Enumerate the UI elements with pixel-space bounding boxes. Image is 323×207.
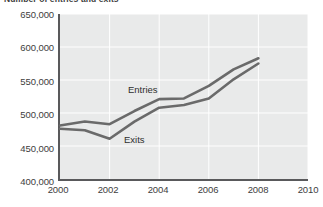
- x-axis-tick-label: 2000: [48, 184, 69, 195]
- entries-exits-line-chart: Number of entries and exits 400,000450,0…: [0, 0, 323, 207]
- plot-area: [58, 14, 308, 181]
- series-lines: [60, 14, 308, 179]
- series-label-exits: Exits: [124, 134, 145, 145]
- y-axis-tick-label: 650,000: [20, 9, 54, 20]
- x-axis-tick-label: 2006: [198, 184, 219, 195]
- series-label-entries: Entries: [128, 84, 158, 95]
- series-line-entries: [60, 58, 258, 125]
- x-axis-tick-label: 2008: [248, 184, 269, 195]
- x-axis-tick-label: 2002: [98, 184, 119, 195]
- y-axis-tick-label: 500,000: [20, 109, 54, 120]
- y-axis-tick-label: 600,000: [20, 42, 54, 53]
- y-axis-tick-label: 550,000: [20, 75, 54, 86]
- y-axis-tick-label: 450,000: [20, 142, 54, 153]
- x-axis-tick-label: 2004: [148, 184, 169, 195]
- series-line-exits: [60, 64, 258, 139]
- x-axis-tick-label: 2010: [298, 184, 319, 195]
- y-axis: 400,000450,000500,000550,000600,000650,0…: [0, 0, 54, 207]
